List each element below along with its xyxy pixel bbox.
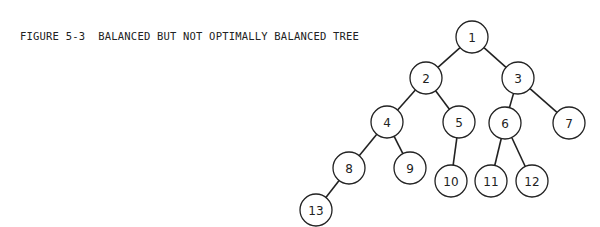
tree-node-6: 6 — [489, 107, 521, 139]
tree-node-8: 8 — [333, 152, 365, 184]
tree-node-5: 5 — [443, 106, 475, 138]
node-label: 7 — [565, 117, 573, 131]
tree-node-7: 7 — [553, 107, 585, 139]
edge-3-7 — [530, 89, 557, 113]
edge-1-3 — [484, 48, 506, 68]
binary-tree-diagram: 12345678910111213 — [0, 0, 600, 227]
tree-nodes: 12345678910111213 — [300, 21, 585, 226]
edge-6-12 — [512, 138, 525, 167]
tree-node-11: 11 — [475, 165, 507, 197]
node-label: 1 — [468, 31, 476, 45]
tree-node-2: 2 — [410, 62, 442, 94]
tree-node-9: 9 — [394, 152, 426, 184]
node-label: 2 — [422, 72, 430, 86]
tree-node-3: 3 — [502, 62, 534, 94]
node-label: 12 — [524, 175, 539, 189]
edge-3-6 — [509, 93, 513, 107]
node-label: 5 — [455, 116, 463, 130]
node-label: 3 — [514, 72, 522, 86]
edge-8-13 — [326, 181, 339, 198]
node-label: 9 — [406, 162, 414, 176]
edge-5-10 — [453, 138, 457, 165]
edge-6-11 — [495, 139, 501, 166]
node-label: 4 — [383, 116, 391, 130]
edge-2-4 — [398, 90, 416, 110]
node-label: 8 — [345, 162, 353, 176]
node-label: 10 — [443, 175, 458, 189]
edge-1-2 — [438, 48, 460, 68]
tree-node-12: 12 — [516, 165, 548, 197]
tree-node-1: 1 — [456, 21, 488, 53]
tree-node-4: 4 — [371, 106, 403, 138]
edge-4-8 — [359, 134, 377, 155]
tree-node-13: 13 — [300, 194, 332, 226]
node-label: 11 — [483, 175, 498, 189]
edge-2-5 — [436, 91, 450, 109]
node-label: 13 — [308, 204, 323, 218]
edge-4-9 — [394, 136, 403, 153]
tree-node-10: 10 — [435, 165, 467, 197]
node-label: 6 — [501, 117, 509, 131]
